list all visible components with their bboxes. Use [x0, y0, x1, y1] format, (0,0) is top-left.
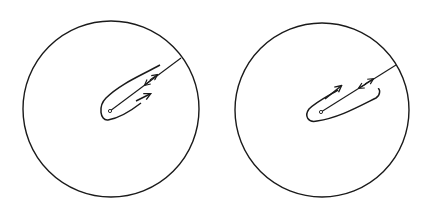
right-cut-arrow-out-icon: [365, 79, 373, 84]
left-branch-point: [108, 109, 111, 112]
left-panel: [23, 21, 199, 197]
right-branch-point: [319, 110, 322, 113]
left-contour-arrow-icon: [136, 94, 150, 101]
right-cut-arrow-in-icon: [359, 84, 366, 88]
right-branch-cut: [321, 65, 396, 112]
right-contour-arrow-icon: [325, 86, 341, 99]
diagram-canvas: [0, 0, 431, 212]
right-keyhole-contour: [307, 89, 380, 121]
right-panel: [235, 23, 409, 197]
left-cut-arrow-in-icon: [145, 80, 151, 85]
left-circle: [23, 21, 199, 197]
right-circle: [235, 23, 409, 197]
left-cut-arrow-out-icon: [150, 75, 157, 80]
